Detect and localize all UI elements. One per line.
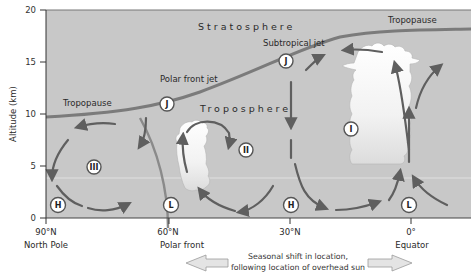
- svg-text:H: H: [288, 201, 295, 210]
- svg-text:II: II: [243, 146, 249, 155]
- x-axis: 90°N North Pole 60°N Polar front 30°N 0°…: [24, 218, 471, 250]
- svg-text:H: H: [55, 201, 62, 210]
- stratosphere-label: Stratosphere: [198, 21, 295, 32]
- seasonal-shift-line1: Seasonal shift in location,: [248, 252, 348, 261]
- polar-front-jet-marker: J: [160, 97, 174, 111]
- x-label-north-pole: North Pole: [24, 240, 68, 250]
- cell-ii-marker: II: [239, 143, 253, 157]
- y-tick-10: 10: [25, 109, 36, 119]
- tropopause-label-left: Tropopause: [62, 98, 112, 108]
- svg-text:J: J: [284, 57, 288, 66]
- high-pressure-30n: H: [284, 198, 299, 213]
- troposphere-label: Troposphere: [199, 103, 291, 114]
- svg-text:L: L: [168, 201, 173, 210]
- y-tick-20: 20: [25, 5, 36, 15]
- low-pressure-equator: L: [402, 198, 417, 213]
- y-tick-0: 0: [31, 213, 36, 223]
- y-tick-15: 15: [25, 57, 36, 67]
- y-axis-label: Altitude (km): [8, 86, 18, 142]
- x-label-polar-front: Polar front: [160, 240, 205, 250]
- x-label-equator: Equator: [395, 240, 429, 250]
- low-pressure-60n: L: [164, 198, 179, 213]
- svg-text:L: L: [406, 201, 411, 210]
- polar-front-jet-label: Polar front jet: [160, 74, 218, 84]
- svg-text:III: III: [90, 163, 99, 172]
- seasonal-shift-line2: following location of overhead sun: [231, 263, 365, 272]
- x-tick-90n: 90°N: [35, 227, 56, 237]
- x-tick-60n: 60°N: [157, 227, 178, 237]
- subtropical-jet-marker: J: [279, 54, 293, 68]
- cell-iii-marker: III: [87, 160, 101, 174]
- seasonal-shift-right-arrow: [368, 255, 412, 271]
- cell-i-marker: I: [344, 122, 358, 136]
- circulation-diagram: 20 15 10 5 0 Altitude (km) 90°N North Po…: [0, 0, 471, 276]
- subtropical-jet-label: Subtropical jet: [263, 38, 325, 48]
- tropopause-label-right: Tropopause: [387, 15, 437, 25]
- x-tick-30n: 30°N: [279, 227, 300, 237]
- y-tick-5: 5: [31, 161, 36, 171]
- x-tick-0: 0°: [406, 227, 416, 237]
- svg-text:I: I: [350, 125, 353, 134]
- high-pressure-pole: H: [51, 198, 66, 213]
- seasonal-shift-left-arrow: [186, 255, 228, 271]
- svg-text:J: J: [165, 100, 169, 109]
- y-axis: 20 15 10 5 0 Altitude (km): [8, 5, 46, 223]
